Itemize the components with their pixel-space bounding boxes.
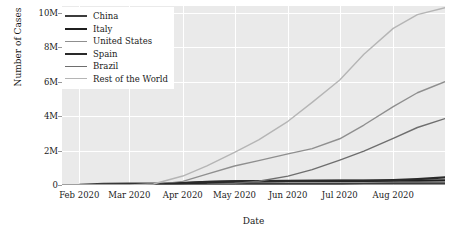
legend-item-label: Spain [93, 50, 118, 59]
legend-line-swatch-icon [65, 15, 87, 17]
series-line [62, 82, 445, 185]
y-tick-label: 6M [28, 78, 58, 87]
y-tick-label: 10M [28, 9, 58, 18]
y-tick-label: 0 [28, 181, 58, 190]
legend-item-label: Italy [93, 25, 112, 34]
legend-item[interactable]: Rest of the World [65, 73, 168, 86]
series-line [62, 119, 445, 185]
y-tick-mark [58, 151, 62, 152]
y-tick-mark [58, 116, 62, 117]
legend-line-swatch-icon [65, 66, 87, 67]
legend-item[interactable]: Spain [65, 48, 168, 61]
chart-figure: Number of Cases 02M4M6M8M10M Feb 2020Mar… [0, 0, 459, 236]
legend-item-label: China [93, 12, 118, 21]
x-tick-label: May 2020 [213, 190, 256, 200]
x-tick-label: Apr 2020 [163, 190, 203, 200]
y-axis-title: Number of Cases [13, 0, 23, 117]
x-tick-label: Jul 2020 [322, 190, 358, 200]
y-tick-mark [58, 185, 62, 186]
legend-item[interactable]: China [65, 10, 168, 23]
legend-item[interactable]: Brazil [65, 60, 168, 73]
x-tick-label: Feb 2020 [59, 190, 99, 200]
y-tick-label: 2M [28, 147, 58, 156]
legend-line-swatch-icon [65, 53, 87, 55]
legend-line-swatch-icon [65, 28, 87, 30]
legend-item-label: Brazil [93, 62, 118, 71]
legend-item[interactable]: Italy [65, 23, 168, 36]
x-tick-label: Aug 2020 [373, 190, 414, 200]
x-axis-title: Date [62, 216, 445, 226]
legend-item-label: Rest of the World [93, 75, 168, 84]
legend-line-swatch-icon [65, 41, 87, 42]
x-tick-label: Jun 2020 [269, 190, 308, 200]
legend-line-swatch-icon [65, 78, 87, 79]
chart-legend: ChinaItalyUnited StatesSpainBrazilRest o… [62, 7, 174, 89]
legend-item-label: United States [93, 37, 152, 46]
legend-item[interactable]: United States [65, 35, 168, 48]
y-tick-label: 8M [28, 43, 58, 52]
x-tick-label: Mar 2020 [108, 190, 150, 200]
x-axis-tick-labels: Feb 2020Mar 2020Apr 2020May 2020Jun 2020… [0, 190, 459, 206]
y-tick-label: 4M [28, 112, 58, 121]
